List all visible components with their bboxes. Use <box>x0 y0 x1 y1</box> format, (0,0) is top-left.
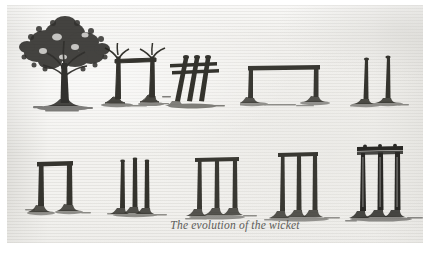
figure-stage-7-three-stumps-no-bail <box>107 153 169 225</box>
figure-stage-1-tree <box>17 11 112 119</box>
figure-stage-3-three-slanted-stumps-two-bails <box>162 49 226 119</box>
figure-caption: The evolution of the wicket <box>150 219 320 231</box>
figure-stage-4-wide-two-stump-wicket <box>240 58 330 114</box>
scanned-illustration-page: The evolution of the wicket <box>7 5 423 243</box>
page-root: The evolution of the wicket <box>0 0 430 253</box>
figure-stage-2-two-forked-stumps-with-bar <box>99 35 171 119</box>
figure-stage-9-taller-three-stump-wicket <box>264 143 342 229</box>
figure-stage-6-two-stump-wicket-with-bail <box>25 153 91 223</box>
figure-stage-10-modern-three-stump-wicket-two-bails <box>345 141 423 229</box>
figure-stage-8-three-stump-wicket-single-bail <box>185 149 259 227</box>
figure-stage-5-two-tall-stumps <box>350 53 410 115</box>
